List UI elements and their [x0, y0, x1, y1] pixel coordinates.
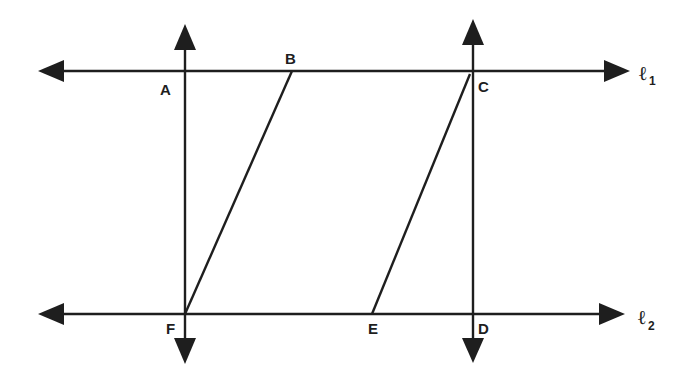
- arrow-right-icon: [599, 303, 625, 325]
- segment-ce: [372, 74, 470, 314]
- point-label-f: F: [166, 320, 175, 337]
- segment-bf: [185, 71, 292, 314]
- point-label-d: D: [478, 320, 489, 337]
- geometry-diagram: A B C F E D ℓ 1 ℓ 2: [0, 0, 691, 380]
- arrow-down-icon: [174, 338, 196, 364]
- arrow-left-icon: [38, 60, 64, 82]
- line-label-l2: ℓ 2: [637, 305, 655, 333]
- point-label-e: E: [368, 320, 378, 337]
- arrow-down-icon: [462, 338, 484, 363]
- line-label-l2-subscript: 2: [648, 319, 655, 333]
- arrow-up-icon: [174, 24, 196, 50]
- arrow-right-icon: [604, 60, 630, 82]
- line-label-l2-main: ℓ: [637, 305, 647, 329]
- point-label-b: B: [285, 50, 296, 67]
- line-label-l1-main: ℓ: [638, 61, 648, 85]
- arrow-up-icon: [462, 19, 484, 45]
- point-label-c: C: [478, 78, 489, 95]
- arrow-left-icon: [38, 303, 64, 325]
- line-l2: [38, 303, 625, 325]
- line-label-l1: ℓ 1: [638, 61, 656, 88]
- line-l1: [38, 60, 630, 82]
- point-label-a: A: [160, 81, 171, 98]
- line-label-l1-subscript: 1: [649, 74, 656, 88]
